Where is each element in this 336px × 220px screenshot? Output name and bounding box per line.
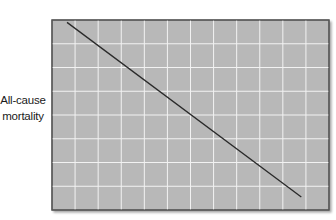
chart-figure: All-cause mortality: [0, 0, 336, 220]
plot-area: [0, 0, 336, 220]
